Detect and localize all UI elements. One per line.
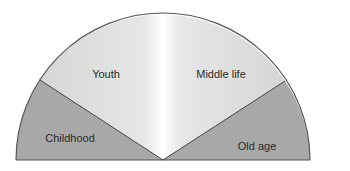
life-stages-diagram <box>0 0 350 171</box>
label-middle-life: Middle life <box>196 68 246 80</box>
label-youth: Youth <box>92 68 120 80</box>
label-old-age: Old age <box>238 140 277 152</box>
label-childhood: Childhood <box>45 132 95 144</box>
